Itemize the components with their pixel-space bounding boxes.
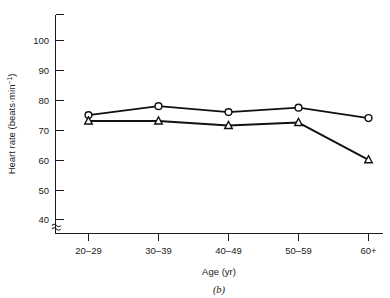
y-axis-break-icon (52, 224, 61, 230)
x-tick-label-30-39: 30–39 (145, 245, 171, 256)
y-tick-label-50: 50 (38, 185, 49, 196)
data-point-circle (155, 103, 162, 110)
figure-panel: 100 90 80 70 60 50 40 20–29 30–39 40–49 … (0, 0, 390, 298)
y-tick-label-90: 90 (38, 65, 49, 76)
y-tick-label-80: 80 (38, 95, 49, 106)
heart-rate-line-chart: 100 90 80 70 60 50 40 20–29 30–39 40–49 … (0, 0, 390, 298)
x-axis-title: Age (yr) (202, 266, 236, 277)
data-point-triangle (295, 118, 303, 125)
y-tick-label-70: 70 (38, 125, 49, 136)
y-tick-label-60: 60 (38, 155, 49, 166)
x-tick-label-20-29: 20–29 (75, 245, 101, 256)
x-tick-label-50-59: 50–59 (285, 245, 311, 256)
y-tick-label-40: 40 (38, 214, 49, 225)
x-axis-ticks (89, 234, 369, 242)
y-tick-label-100: 100 (33, 35, 49, 46)
data-point-triangle (155, 117, 163, 124)
data-point-triangle (225, 121, 233, 128)
data-point-triangle (365, 156, 373, 163)
x-tick-label-40-49: 40–49 (215, 245, 241, 256)
y-axis-ticks (56, 41, 65, 220)
y-axis-title: Heart rate (beats·min−1) (6, 74, 17, 175)
data-point-circle (295, 104, 302, 111)
x-tick-label-60-plus: 60+ (360, 245, 377, 256)
data-point-circle (225, 109, 232, 116)
panel-caption: (b) (213, 284, 226, 296)
data-point-circle (365, 115, 372, 122)
